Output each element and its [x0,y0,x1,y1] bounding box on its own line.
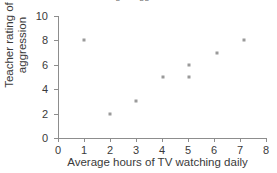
y-tick-label: 0 [42,132,48,144]
x-tick-mark: 2 [110,138,111,142]
y-tick-label: 2 [42,108,48,120]
x-tick-mark: 1 [84,138,85,142]
x-tick-label: 4 [159,144,165,156]
data-point [188,76,191,79]
y-tick-label: 8 [42,34,48,46]
y-tick-label: 6 [42,59,48,71]
x-tick-mark: 0 [58,138,59,142]
x-tick-label: 3 [133,144,139,156]
scatter-chart: rating of aggression Teacher rating of a… [0,0,277,173]
x-tick-label: 6 [211,144,217,156]
x-axis-label: Average hours of TV watching daily [38,156,277,168]
y-tick-mark: 8 [54,40,58,41]
data-point [242,39,245,42]
x-tick-label: 0 [55,144,61,156]
y-tick-mark: 10 [54,16,58,17]
data-point [188,63,191,66]
data-point [109,112,112,115]
y-axis-label-line1: Teacher rating of [3,0,16,108]
x-tick-mark: 4 [162,138,163,142]
y-tick-mark: 2 [54,114,58,115]
x-tick-label: 7 [237,144,243,156]
x-tick-mark: 6 [214,138,215,142]
data-point [83,39,86,42]
x-tick-label: 2 [107,144,113,156]
data-point [215,51,218,54]
data-point [135,100,138,103]
data-point [162,76,165,79]
y-axis-label: Teacher rating of aggression [3,0,33,108]
y-axis-line [58,16,59,138]
y-tick-mark: 6 [54,65,58,66]
x-tick-mark: 3 [136,138,137,142]
y-tick-label: 10 [36,10,48,22]
plot-area: 0246810 012345678 [58,16,266,138]
x-tick-label: 5 [185,144,191,156]
chart-title: rating of aggression [0,0,277,1]
x-tick-mark: 5 [188,138,189,142]
y-tick-mark: 4 [54,89,58,90]
x-tick-label: 1 [81,144,87,156]
x-tick-mark: 8 [266,138,267,142]
y-tick-label: 4 [42,83,48,95]
x-tick-label: 8 [263,144,269,156]
y-axis-label-line2: aggression [16,0,29,108]
x-tick-mark: 7 [240,138,241,142]
